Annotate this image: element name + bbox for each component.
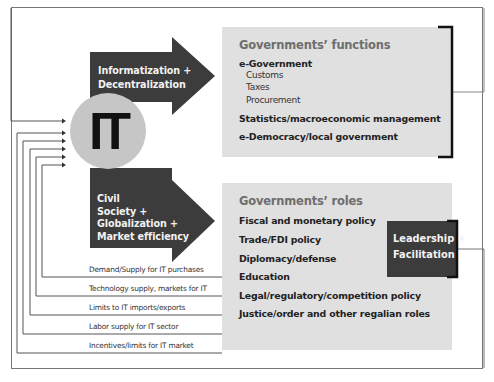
arrow-line: Civil: [97, 193, 189, 206]
leadership-label: Leadership + Facilitation: [393, 231, 466, 263]
arrow-line: Society +: [97, 206, 189, 219]
flow-label: Labor supply for IT sector: [89, 322, 178, 331]
flow-label: Incentives/limits for IT market: [89, 341, 193, 350]
top-arrow-label: Informatization + Decentralization: [98, 64, 191, 92]
arrow-line: Globalization +: [97, 218, 189, 231]
arrow-line: Informatization +: [98, 64, 191, 78]
it-label: IT: [70, 93, 146, 169]
arrow-line: Decentralization: [98, 78, 191, 92]
leadership-line: Facilitation: [393, 247, 466, 263]
flow-label: Limits to IT imports/exports: [89, 303, 185, 312]
leadership-line: Leadership +: [393, 231, 466, 247]
flow-label: Technology supply, markets for IT: [89, 284, 207, 293]
bottom-arrow-label: Civil Society + Globalization + Market e…: [97, 193, 189, 243]
flow-label: Demand/Supply for IT purchases: [89, 265, 204, 274]
arrow-line: Market efficiency: [97, 231, 189, 244]
leadership-bracket: [0, 0, 494, 382]
